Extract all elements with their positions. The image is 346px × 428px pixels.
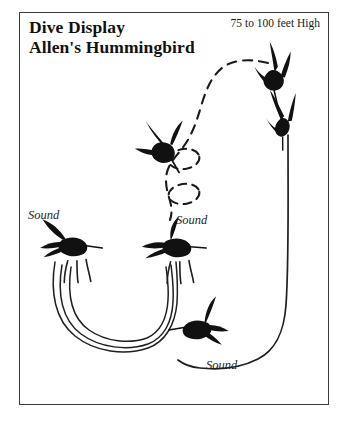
- sound-label-left: Sound: [28, 208, 59, 223]
- sound-label-middle: Sound: [176, 213, 207, 228]
- title-line-1: Dive Display: [29, 18, 195, 38]
- dive-display-figure: Dive Display Allen's Hummingbird 75 to 1…: [0, 0, 346, 428]
- sound-label-lower: Sound: [206, 358, 237, 373]
- figure-border: [19, 12, 329, 405]
- altitude-annotation: 75 to 100 feet High: [231, 17, 320, 29]
- title-line-2: Allen's Hummingbird: [29, 38, 195, 58]
- figure-title: Dive Display Allen's Hummingbird: [29, 18, 195, 58]
